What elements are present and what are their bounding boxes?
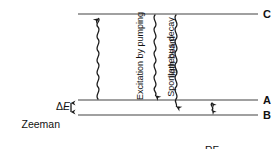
zeeman-sublevels-label: Zeeman sublevels: [8, 93, 60, 149]
level-label-b: B: [263, 109, 271, 121]
delta-e-variable: E: [63, 100, 70, 112]
rf-repopulation-line1: RF: [178, 144, 246, 149]
rf-repopulation-arrow: [211, 103, 213, 110]
excitation-label-line1: Excitation by pumping: [135, 14, 146, 100]
spontaneous-decay-label: Spontaneous decay: [166, 14, 177, 100]
zeeman-sublevels-line1: Zeeman: [8, 118, 60, 131]
rf-repopulation-label: RF repopulation: [178, 119, 246, 149]
delta-symbol: Δ: [56, 100, 63, 112]
excitation-label: Excitation by pumping ligth beam: [114, 14, 199, 100]
excitation-wavy-arrow: [97, 19, 99, 100]
level-label-c: C: [263, 8, 271, 20]
energy-level-diagram: C A B Zeeman sublevels ΔE RF repopulatio…: [0, 0, 277, 149]
delta-e-label: ΔE: [56, 101, 70, 113]
level-label-a: A: [263, 94, 271, 106]
